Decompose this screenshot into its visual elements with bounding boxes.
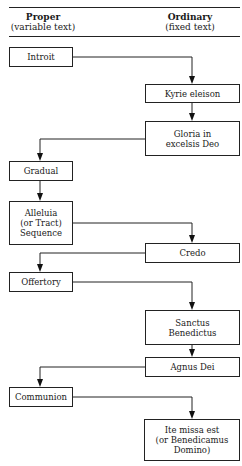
node-gloria: Gloria in excelsis Deo	[145, 121, 240, 156]
node-ite-missa-est: Ite missa est (or Benedicamus Domino)	[144, 419, 240, 461]
node-alleluia: Alleluia (or Tract) Sequence	[9, 201, 73, 245]
node-label: Communion	[15, 392, 67, 402]
node-label: Agnus Dei	[170, 362, 214, 372]
node-label: Kyrie eleison	[165, 89, 221, 99]
node-credo: Credo	[145, 243, 240, 263]
node-label: excelsis Deo	[166, 139, 219, 149]
node-agnus-dei: Agnus Dei	[145, 357, 240, 377]
node-kyrie-eleison: Kyrie eleison	[145, 84, 240, 103]
node-label: Gradual	[24, 166, 59, 176]
node-label: (or Tract)	[20, 218, 62, 228]
node-label: Credo	[179, 248, 205, 258]
node-introit: Introit	[9, 47, 73, 67]
node-label: Sequence	[20, 228, 62, 238]
node-label: Introit	[27, 52, 55, 62]
node-label: Offertory	[21, 277, 61, 287]
node-communion: Communion	[9, 387, 73, 407]
node-label: Domino)	[174, 445, 211, 455]
node-label: Benedictus	[169, 328, 217, 338]
node-label: Sanctus	[175, 318, 209, 328]
node-label: Gloria in	[174, 129, 211, 139]
node-sanctus: Sanctus Benedictus	[145, 310, 240, 345]
node-label: (or Benedicamus	[156, 435, 229, 445]
node-offertory: Offertory	[9, 272, 73, 292]
node-gradual: Gradual	[9, 161, 73, 181]
node-label: Ite missa est	[165, 425, 220, 435]
node-label: Alleluia	[25, 208, 58, 218]
